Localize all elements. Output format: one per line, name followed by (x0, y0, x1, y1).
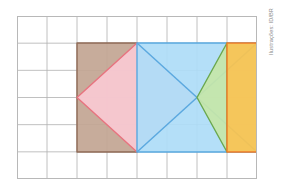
shape-layer (77, 43, 257, 152)
orange-rectangle (227, 43, 257, 152)
figure-root: Ilustrações: ID/BR (0, 0, 290, 196)
illustration-credit-text: Ilustrações: ID/BR (269, 8, 275, 55)
geometry-diagram-svg (17, 16, 257, 179)
illustration-credit: Ilustrações: ID/BR (266, 8, 278, 88)
grid-figure (17, 16, 257, 179)
